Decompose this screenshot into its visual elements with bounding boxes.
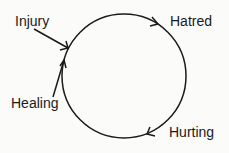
label-healing: Healing (11, 96, 58, 110)
label-hurting: Hurting (169, 125, 214, 139)
cycle-circle (62, 14, 186, 138)
label-hatred: Hatred (170, 14, 212, 28)
label-injury: Injury (15, 14, 49, 28)
injury-arrow (34, 29, 68, 48)
cycle-diagram: Injury Hatred Healing Hurting (0, 0, 229, 153)
